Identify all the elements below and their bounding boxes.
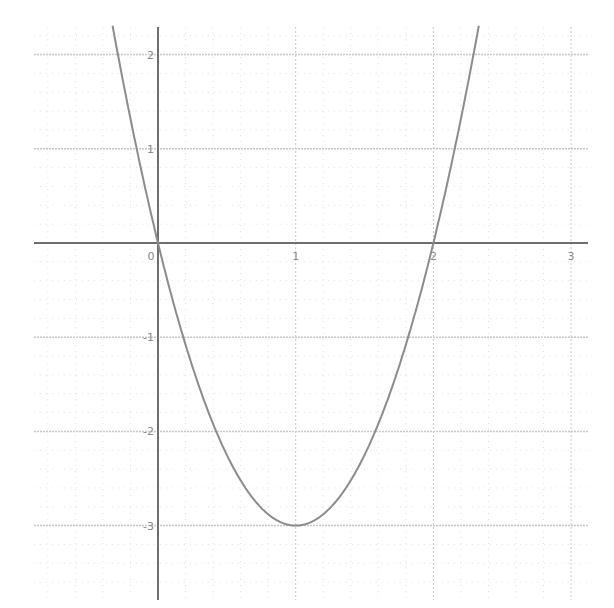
y-tick-label: -3 (143, 520, 154, 533)
function-plot: 012321-1-2-3 (0, 0, 614, 608)
y-tick-label: 2 (147, 49, 154, 62)
x-tick-label: 1 (292, 250, 299, 263)
y-tick-label: -2 (143, 425, 154, 438)
axes (34, 27, 588, 600)
major-grid (34, 27, 588, 600)
minor-grid (34, 27, 588, 600)
y-tick-label: 1 (147, 143, 154, 156)
y-tick-label: -1 (143, 331, 154, 344)
tick-labels: 012321-1-2-3 (143, 49, 575, 533)
x-tick-label: 3 (568, 250, 575, 263)
x-tick-label: 0 (148, 250, 155, 263)
